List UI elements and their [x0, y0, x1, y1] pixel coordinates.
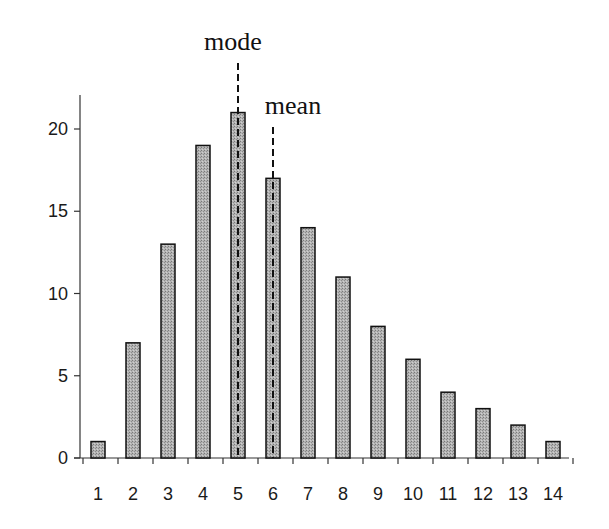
y-tick-label: 15	[48, 201, 68, 221]
bar-3	[161, 244, 175, 458]
x-tick-label: 11	[439, 484, 458, 504]
y-tick-label: 10	[48, 284, 68, 304]
bar-14	[546, 442, 560, 458]
mean-label: mean	[265, 91, 321, 120]
bar-12	[476, 409, 490, 458]
bar-9	[371, 326, 385, 458]
x-tick-label: 5	[233, 484, 243, 504]
bar-13	[511, 425, 525, 458]
bar-2	[126, 343, 140, 458]
bars	[91, 113, 560, 458]
x-tick-label: 6	[268, 484, 278, 504]
x-tick-label: 8	[338, 484, 348, 504]
bar-4	[196, 145, 210, 458]
x-tick-label: 10	[403, 484, 423, 504]
bar-8	[336, 277, 350, 458]
x-tick-label: 3	[163, 484, 173, 504]
x-tick-label: 9	[373, 484, 383, 504]
x-tick-label: 1	[93, 484, 103, 504]
y-tick-label: 5	[58, 366, 68, 386]
bar-7	[301, 228, 315, 458]
x-tick-label: 12	[473, 484, 493, 504]
bar-chart: 05101520 1234567891011121314 modemean	[0, 0, 609, 529]
x-tick-label: 14	[543, 484, 563, 504]
x-tick-label: 4	[198, 484, 208, 504]
mode-label: mode	[204, 27, 262, 56]
bar-11	[441, 392, 455, 458]
bar-10	[406, 359, 420, 458]
x-tick-label: 13	[508, 484, 528, 504]
bar-1	[91, 442, 105, 458]
x-tick-label: 2	[128, 484, 138, 504]
x-axis: 1234567891011121314	[74, 458, 573, 504]
y-tick-label: 0	[58, 448, 68, 468]
y-axis: 05101520	[48, 95, 80, 468]
x-tick-label: 7	[303, 484, 313, 504]
y-tick-label: 20	[48, 119, 68, 139]
